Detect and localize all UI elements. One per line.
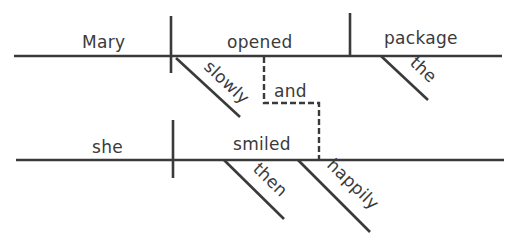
conjunction-word: and bbox=[274, 81, 307, 101]
clause-1-object: package bbox=[384, 28, 458, 48]
modifier-slowly: slowly bbox=[200, 56, 253, 108]
clause-2: she smiled then happily bbox=[16, 120, 504, 232]
modifier-the: the bbox=[406, 52, 441, 86]
modifier-then: then bbox=[249, 158, 292, 200]
clause-1-verb: opened bbox=[227, 32, 292, 52]
clause-1-subject: Mary bbox=[82, 32, 125, 52]
clause-1: Mary opened package slowly the bbox=[14, 13, 502, 117]
clause-2-subject: she bbox=[92, 137, 123, 157]
clause-2-verb: smiled bbox=[233, 134, 291, 154]
modifier-happily: happily bbox=[323, 154, 383, 213]
sentence-diagram: Mary opened package slowly the and she s… bbox=[0, 0, 514, 240]
